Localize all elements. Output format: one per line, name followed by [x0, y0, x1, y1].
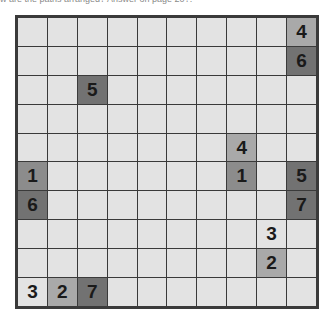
grid-cell[interactable]	[108, 162, 137, 190]
grid-cell[interactable]	[18, 249, 47, 277]
grid-cell[interactable]	[197, 278, 226, 306]
grid-cell[interactable]	[48, 191, 77, 219]
grid-cell[interactable]	[227, 220, 256, 248]
grid-cell[interactable]	[227, 76, 256, 104]
grid-cell[interactable]	[108, 278, 137, 306]
clue-cell[interactable]: 1	[227, 162, 256, 190]
grid-cell[interactable]	[167, 220, 196, 248]
grid-cell[interactable]	[287, 76, 316, 104]
grid-cell[interactable]	[18, 134, 47, 162]
grid-cell[interactable]	[48, 162, 77, 190]
grid-cell[interactable]	[197, 47, 226, 75]
grid-cell[interactable]	[138, 18, 167, 46]
grid-cell[interactable]	[197, 162, 226, 190]
grid-cell[interactable]	[108, 249, 137, 277]
grid-cell[interactable]	[48, 249, 77, 277]
grid-cell[interactable]	[108, 76, 137, 104]
grid-cell[interactable]	[18, 220, 47, 248]
grid-cell[interactable]	[138, 47, 167, 75]
clue-cell[interactable]: 4	[287, 18, 316, 46]
grid-cell[interactable]	[78, 191, 107, 219]
grid-cell[interactable]	[197, 220, 226, 248]
grid-cell[interactable]	[167, 105, 196, 133]
clue-cell[interactable]: 5	[287, 162, 316, 190]
grid-cell[interactable]	[48, 134, 77, 162]
clue-cell[interactable]: 1	[18, 162, 47, 190]
grid-cell[interactable]	[167, 191, 196, 219]
grid-cell[interactable]	[48, 18, 77, 46]
grid-cell[interactable]	[257, 278, 286, 306]
grid-cell[interactable]	[167, 47, 196, 75]
grid-cell[interactable]	[227, 249, 256, 277]
grid-cell[interactable]	[227, 47, 256, 75]
grid-cell[interactable]	[108, 191, 137, 219]
grid-cell[interactable]	[108, 47, 137, 75]
grid-cell[interactable]	[167, 134, 196, 162]
grid-cell[interactable]	[138, 76, 167, 104]
clue-cell[interactable]: 6	[287, 47, 316, 75]
grid-cell[interactable]	[287, 134, 316, 162]
grid-cell[interactable]	[197, 76, 226, 104]
grid-cell[interactable]	[138, 105, 167, 133]
clue-cell[interactable]: 3	[257, 220, 286, 248]
grid-cell[interactable]	[108, 18, 137, 46]
grid-cell[interactable]	[167, 249, 196, 277]
grid-cell[interactable]	[108, 220, 137, 248]
grid-cell[interactable]	[227, 105, 256, 133]
grid-cell[interactable]	[287, 278, 316, 306]
grid-cell[interactable]	[257, 18, 286, 46]
grid-cell[interactable]	[227, 191, 256, 219]
grid-cell[interactable]	[18, 105, 47, 133]
grid-cell[interactable]	[78, 249, 107, 277]
grid-cell[interactable]	[197, 18, 226, 46]
clue-cell[interactable]: 4	[227, 134, 256, 162]
grid-cell[interactable]	[257, 47, 286, 75]
grid-cell[interactable]	[138, 249, 167, 277]
grid-cell[interactable]	[167, 76, 196, 104]
grid-cell[interactable]	[287, 249, 316, 277]
grid-cell[interactable]	[197, 249, 226, 277]
grid-cell[interactable]	[18, 47, 47, 75]
grid-cell[interactable]	[197, 134, 226, 162]
clue-cell[interactable]: 2	[257, 249, 286, 277]
grid-cell[interactable]	[138, 162, 167, 190]
grid-cell[interactable]	[257, 134, 286, 162]
grid-cell[interactable]	[197, 191, 226, 219]
grid-cell[interactable]	[257, 191, 286, 219]
grid-cell[interactable]	[227, 278, 256, 306]
grid-cell[interactable]	[48, 47, 77, 75]
grid-cell[interactable]	[287, 220, 316, 248]
grid-cell[interactable]	[197, 105, 226, 133]
grid-cell[interactable]	[18, 76, 47, 104]
grid-cell[interactable]	[108, 105, 137, 133]
grid-cell[interactable]	[287, 105, 316, 133]
grid-cell[interactable]	[227, 18, 256, 46]
grid-cell[interactable]	[78, 162, 107, 190]
clue-cell[interactable]: 7	[78, 278, 107, 306]
clue-cell[interactable]: 3	[18, 278, 47, 306]
clue-cell[interactable]: 5	[78, 76, 107, 104]
clue-cell[interactable]: 2	[48, 278, 77, 306]
grid-cell[interactable]	[78, 105, 107, 133]
grid-cell[interactable]	[78, 220, 107, 248]
grid-cell[interactable]	[257, 162, 286, 190]
grid-cell[interactable]	[138, 134, 167, 162]
grid-cell[interactable]	[48, 220, 77, 248]
grid-cell[interactable]	[48, 76, 77, 104]
grid-cell[interactable]	[18, 18, 47, 46]
grid-cell[interactable]	[108, 134, 137, 162]
grid-cell[interactable]	[257, 76, 286, 104]
grid-cell[interactable]	[78, 18, 107, 46]
grid-cell[interactable]	[78, 47, 107, 75]
grid-cell[interactable]	[138, 191, 167, 219]
grid-cell[interactable]	[138, 220, 167, 248]
grid-cell[interactable]	[257, 105, 286, 133]
grid-cell[interactable]	[167, 278, 196, 306]
grid-cell[interactable]	[138, 278, 167, 306]
grid-cell[interactable]	[78, 134, 107, 162]
clue-cell[interactable]: 6	[18, 191, 47, 219]
grid-cell[interactable]	[167, 162, 196, 190]
clue-cell[interactable]: 7	[287, 191, 316, 219]
grid-cell[interactable]	[48, 105, 77, 133]
grid-cell[interactable]	[167, 18, 196, 46]
